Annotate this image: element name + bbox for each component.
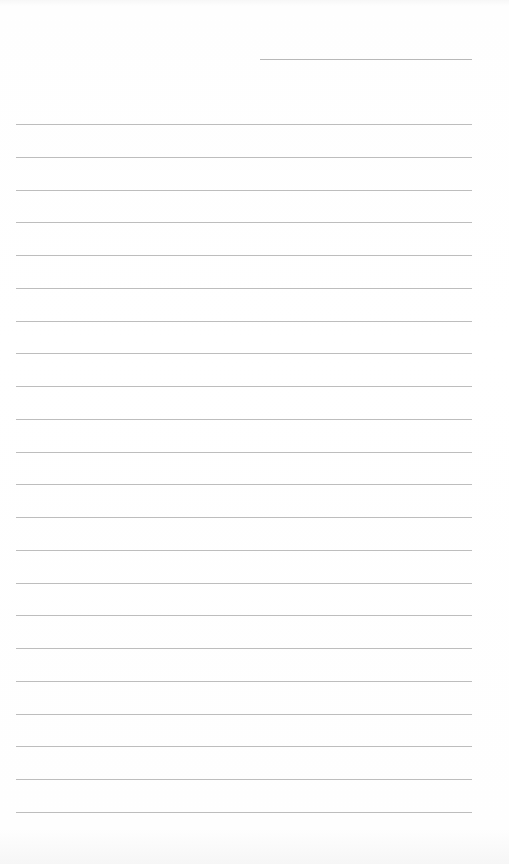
ruled-line [16, 615, 472, 616]
ruled-line [16, 746, 472, 747]
ruled-line [16, 157, 472, 158]
ruled-line [16, 386, 472, 387]
ruled-line [16, 190, 472, 191]
ruled-line [16, 812, 472, 813]
ruled-lines [0, 0, 509, 864]
ruled-line [16, 714, 472, 715]
ruled-line [16, 222, 472, 223]
ruled-line [16, 288, 472, 289]
ruled-line [16, 124, 472, 125]
ruled-line [16, 452, 472, 453]
lined-paper-page [0, 0, 509, 864]
ruled-line [16, 419, 472, 420]
ruled-line [16, 583, 472, 584]
ruled-line [16, 681, 472, 682]
ruled-line [16, 255, 472, 256]
ruled-line [16, 484, 472, 485]
ruled-line [16, 321, 472, 322]
ruled-line [16, 550, 472, 551]
ruled-line [16, 353, 472, 354]
ruled-line [16, 517, 472, 518]
ruled-line [16, 779, 472, 780]
ruled-line [16, 648, 472, 649]
